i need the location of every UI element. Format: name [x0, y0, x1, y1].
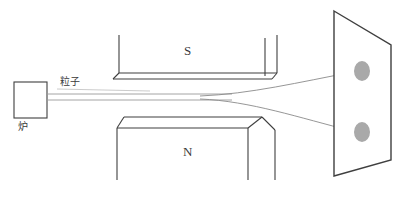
figure-canvas: 粒子 炉 S N	[0, 0, 404, 200]
furnace-label: 炉	[18, 122, 28, 132]
split-beams	[200, 72, 353, 131]
detection-screen-body	[334, 11, 391, 176]
north-pole-label: N	[183, 145, 192, 158]
deflected-beam-up	[200, 72, 353, 96]
furnace-box	[14, 82, 47, 118]
north-right-bevel-outer	[262, 117, 275, 130]
magnet-north-body	[117, 117, 275, 180]
furnace-rect	[14, 82, 47, 118]
magnet-south-body	[113, 35, 277, 79]
south-right-bevel	[272, 73, 277, 79]
south-left-bevel	[113, 73, 119, 79]
stern-gerlach-diagram	[0, 0, 404, 200]
particle-beam-label: 粒子	[60, 77, 80, 87]
north-right-bevel-inner	[248, 117, 262, 128]
screen-plane	[334, 11, 391, 176]
south-pole-label: S	[184, 44, 191, 57]
upper-impact-spot	[354, 61, 370, 81]
lower-impact-spot	[354, 122, 370, 142]
north-left-bevel	[117, 117, 124, 128]
beam-label-leader-line	[57, 89, 150, 91]
deflected-beam-down	[200, 99, 352, 131]
